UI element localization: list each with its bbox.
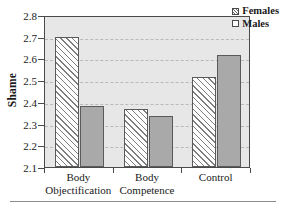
plot-area bbox=[44, 16, 250, 168]
y-tick-label: 2.1 bbox=[7, 162, 37, 174]
bar-females-0 bbox=[55, 37, 79, 167]
bar-chart-figure: Shame 2.82.72.62.52.42.32.22.1 BodyObjec… bbox=[0, 0, 286, 210]
legend-item-males: Males bbox=[232, 18, 279, 31]
chart-legend: Females Males bbox=[228, 4, 282, 32]
hatched-swatch-icon bbox=[232, 8, 239, 15]
bottom-divider bbox=[10, 201, 276, 202]
plot-inner bbox=[45, 17, 249, 167]
x-category-label: BodyCompetence bbox=[113, 171, 182, 197]
legend-item-females: Females bbox=[232, 5, 279, 18]
x-category-label: BodyObjectification bbox=[44, 171, 113, 197]
bar-females-1 bbox=[124, 109, 148, 167]
y-tick-label: 2.8 bbox=[7, 10, 37, 22]
y-tick-label: 2.7 bbox=[7, 32, 37, 44]
x-category-label: Control bbox=[181, 171, 250, 184]
y-tick-label: 2.4 bbox=[7, 97, 37, 109]
y-tick-label: 2.6 bbox=[7, 53, 37, 65]
bar-males-0 bbox=[80, 106, 104, 167]
bar-males-2 bbox=[217, 55, 241, 167]
x-tick-mark bbox=[250, 168, 251, 173]
bar-males-1 bbox=[149, 116, 173, 167]
y-tick-label: 2.5 bbox=[7, 75, 37, 87]
plain-swatch-icon bbox=[232, 20, 239, 27]
y-tick-label: 2.2 bbox=[7, 140, 37, 152]
bar-females-2 bbox=[192, 77, 216, 167]
legend-label-males: Males bbox=[242, 18, 269, 31]
legend-label-females: Females bbox=[242, 5, 279, 18]
y-tick-label: 2.3 bbox=[7, 119, 37, 131]
